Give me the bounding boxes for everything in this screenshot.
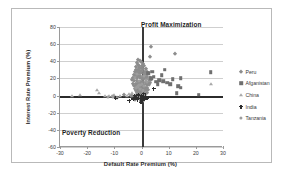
chart-legend: PeruAfganistanChinaIndiaTanzania [238,66,282,124]
y-tick-mark [57,78,60,79]
data-point-india [139,100,143,104]
data-point-afganistan [179,77,183,81]
data-point-india [136,93,140,97]
x-tick-mark [60,146,61,149]
circle-marker-icon [238,115,244,122]
x-tick-mark [114,146,115,149]
data-point-china [95,88,99,91]
data-point-afganistan [179,86,183,90]
x-tick-mark [87,146,88,149]
data-point-afganistan [151,70,155,74]
data-point-india [145,96,149,100]
x-tick-label: -20 [83,150,91,156]
data-point-afganistan [171,77,175,81]
y-tick-mark [57,27,60,28]
x-tick-label: 20 [193,150,199,156]
legend-label: China [246,92,259,98]
y-tick-label: -40 [48,127,56,133]
y-tick-label: 60 [50,41,56,47]
data-point-india [127,99,131,103]
annotation-profit-maximization: Profit Maximization [141,21,202,28]
y-tick-label: -20 [48,110,56,116]
x-tick-label: 0 [140,150,143,156]
data-point-afganistan [160,73,164,77]
legend-item-china[interactable]: China [238,89,282,101]
data-point-tanzania [106,96,109,99]
data-point-afganistan [197,93,201,97]
data-point-afganistan [209,71,213,75]
y-tick-label: 20 [50,75,56,81]
data-point-afganistan [146,71,150,75]
data-point-peru [148,55,153,60]
legend-item-afganistan[interactable]: Afganistan [238,78,282,90]
legend-label: Tanzania [246,115,266,121]
scatter-chart-figure: -60-40-20020406080 -30-20-100102030 Prof… [0,0,286,175]
legend-item-peru[interactable]: Peru [238,66,282,78]
triangle-marker-icon [238,91,244,98]
data-point-india [152,87,156,91]
y-axis-title: Interest Rate Premium (%) [25,50,31,125]
data-point-afganistan [163,68,167,72]
y-tick-mark [57,44,60,45]
legend-item-tanzania[interactable]: Tanzania [238,112,282,124]
square-marker-icon [238,80,244,87]
data-point-china [78,93,82,96]
data-point-china [209,83,213,86]
x-tick-label: 30 [220,150,226,156]
y-tick-mark [57,113,60,114]
legend-label: Peru [246,69,257,75]
data-point-china [97,91,101,94]
data-point-india [131,97,135,101]
data-point-afganistan [156,83,160,87]
legend-label: India [246,104,257,110]
y-tick-mark [57,61,60,62]
annotation-poverty-reduction: Poverty Reduction [62,129,120,136]
cross-marker-icon [238,103,244,110]
x-tick-label: -30 [56,150,64,156]
x-tick-label: 10 [166,150,172,156]
y-tick-label: 80 [50,24,56,30]
y-tick-label: -60 [48,144,56,150]
y-tick-label: 0 [53,93,56,99]
data-point-china [125,94,129,97]
y-tick-label: 40 [50,58,56,64]
data-point-china [70,94,74,97]
legend-item-india[interactable]: India [238,101,282,113]
data-point-afganistan [175,91,179,95]
x-axis-title: Default Rate Premium (%) [59,161,222,167]
data-point-afganistan [161,79,165,83]
x-tick-mark [196,146,197,149]
chart-frame: -60-40-20020406080 -30-20-100102030 Prof… [11,8,272,163]
data-point-afganistan [149,77,153,81]
legend-label: Afganistan [246,80,270,86]
x-tick-mark [169,146,170,149]
data-point-peru [173,51,178,56]
data-point-afganistan [168,83,172,87]
x-tick-label: -10 [111,150,119,156]
x-tick-mark [223,146,224,149]
y-tick-mark [57,130,60,131]
diamond-marker-icon [238,68,244,75]
data-point-china [118,95,122,98]
